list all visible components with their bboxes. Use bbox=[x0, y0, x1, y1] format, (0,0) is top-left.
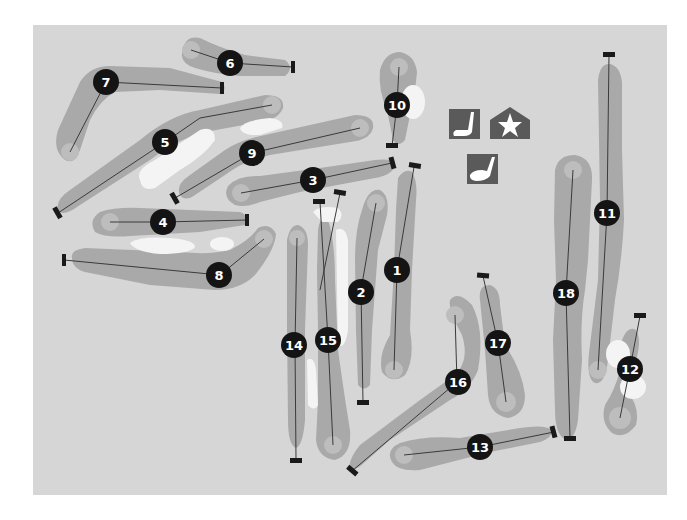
bunker-15b bbox=[336, 229, 348, 346]
tee-7 bbox=[220, 82, 224, 94]
svg-text:5: 5 bbox=[160, 135, 169, 150]
tee-1 bbox=[409, 162, 422, 169]
tee-2 bbox=[357, 400, 369, 405]
driving-range-icon bbox=[467, 154, 498, 184]
tee-18 bbox=[564, 436, 576, 441]
svg-text:1: 1 bbox=[392, 263, 401, 278]
tee-15b bbox=[334, 189, 347, 196]
svg-text:15: 15 bbox=[319, 333, 337, 348]
svg-text:12: 12 bbox=[621, 362, 639, 377]
fairway-8 bbox=[72, 226, 276, 290]
hole-badge-12[interactable]: 12 bbox=[617, 356, 643, 382]
hole-badge-5[interactable]: 5 bbox=[152, 129, 178, 155]
course-map: 1 2 3 4 5 6 7 8 9 10 11 12 13 14 15 16 1… bbox=[33, 25, 667, 495]
tee-15 bbox=[313, 199, 325, 204]
svg-text:4: 4 bbox=[158, 215, 167, 230]
svg-text:11: 11 bbox=[598, 206, 616, 221]
hole-badge-2[interactable]: 2 bbox=[348, 279, 374, 305]
hole-badge-9[interactable]: 9 bbox=[239, 140, 265, 166]
hole-badge-7[interactable]: 7 bbox=[93, 69, 119, 95]
putting-green-icon bbox=[449, 109, 480, 139]
svg-text:16: 16 bbox=[449, 375, 467, 390]
hole-badge-6[interactable]: 6 bbox=[217, 50, 243, 76]
tee-12 bbox=[634, 313, 646, 318]
course-map-svg: 1 2 3 4 5 6 7 8 9 10 11 12 13 14 15 16 1… bbox=[33, 25, 667, 495]
hole-badge-18[interactable]: 18 bbox=[553, 280, 579, 306]
tee-14 bbox=[290, 458, 302, 463]
tee-8 bbox=[62, 254, 66, 266]
hole-badge-3[interactable]: 3 bbox=[300, 167, 326, 193]
tee-9 bbox=[169, 192, 179, 205]
svg-text:7: 7 bbox=[101, 75, 110, 90]
hole-badge-8[interactable]: 8 bbox=[206, 262, 232, 288]
tee-17 bbox=[477, 272, 489, 278]
bunker-15a bbox=[313, 207, 342, 222]
hole-badge-15[interactable]: 15 bbox=[315, 327, 341, 353]
svg-text:17: 17 bbox=[489, 336, 507, 351]
tee-10 bbox=[386, 143, 398, 148]
svg-text:6: 6 bbox=[225, 56, 234, 71]
hole-badge-10[interactable]: 10 bbox=[384, 92, 410, 118]
bunker-14 bbox=[307, 359, 318, 409]
svg-text:13: 13 bbox=[471, 440, 489, 455]
hole-badge-16[interactable]: 16 bbox=[445, 369, 471, 395]
svg-text:18: 18 bbox=[557, 286, 575, 301]
svg-text:9: 9 bbox=[247, 146, 256, 161]
svg-text:8: 8 bbox=[214, 268, 223, 283]
hole-badge-11[interactable]: 11 bbox=[594, 200, 620, 226]
hole-badge-17[interactable]: 17 bbox=[485, 330, 511, 356]
hole-badge-4[interactable]: 4 bbox=[150, 209, 176, 235]
clubhouse-icon bbox=[490, 107, 530, 139]
tee-4 bbox=[245, 214, 249, 226]
svg-text:14: 14 bbox=[285, 338, 303, 353]
hole-badge-13[interactable]: 13 bbox=[467, 434, 493, 460]
bunker-4b bbox=[210, 237, 234, 251]
svg-text:2: 2 bbox=[356, 285, 365, 300]
hole-badge-1[interactable]: 1 bbox=[384, 257, 410, 283]
tee-6 bbox=[291, 61, 295, 73]
svg-text:3: 3 bbox=[308, 173, 317, 188]
hole-badge-14[interactable]: 14 bbox=[281, 332, 307, 358]
tee-11 bbox=[603, 52, 615, 57]
svg-text:10: 10 bbox=[388, 98, 406, 113]
